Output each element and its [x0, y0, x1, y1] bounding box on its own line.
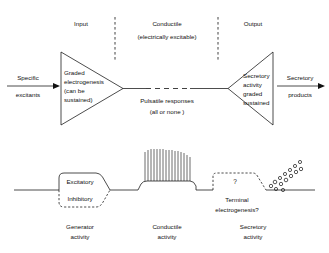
generator-caption-line-1: Generator [66, 223, 94, 230]
input-triangle-line-3: (can be [64, 87, 85, 94]
inhibitory-label: Inhibitory [67, 195, 93, 202]
input-arrow-label-bottom: excitants [16, 91, 40, 98]
generator-caption-line-2: activity [71, 233, 91, 240]
conductile-caption-line-2: activity [158, 233, 178, 240]
output-triangle-line-1: Secretory [243, 72, 270, 79]
output-triangle-line-4: sustained [243, 99, 270, 106]
neuron-zones-figure: Input Conductile (electrically excitable… [0, 0, 329, 253]
excitatory-label: Excitatory [66, 178, 94, 185]
conductile-caption-line-1: Conductile [152, 223, 182, 230]
zone-header-input: Input [74, 20, 88, 27]
zone-header-conductile: Conductile [152, 20, 182, 27]
input-triangle-line-1: Graded [64, 69, 85, 76]
question-mark-label: ? [233, 178, 237, 185]
secretory-caption-line-1: Secretory [240, 223, 267, 230]
output-arrow-label-bottom: products [288, 91, 312, 98]
secretory-caption-line-2: activity [244, 233, 264, 240]
terminal-label-line-1: Terminal [225, 196, 248, 203]
output-triangle-line-2: activity [243, 81, 263, 88]
axon-label-line-1: Pulsatile responses [140, 97, 194, 104]
zone-header-output: Output [244, 20, 263, 27]
input-triangle-line-4: sustained) [64, 96, 93, 103]
output-triangle-line-3: graded [243, 90, 263, 97]
axon-label-line-2: (all or none ) [150, 108, 185, 115]
input-triangle-line-2: electrogenesis [64, 78, 104, 85]
input-arrow-label-top: Specific [17, 74, 39, 81]
terminal-label-line-2: electrogenesis? [215, 206, 259, 213]
zone-header-conductile-sub: (electrically excitable) [137, 33, 196, 40]
output-arrow-label-top: Secretory [287, 74, 314, 81]
